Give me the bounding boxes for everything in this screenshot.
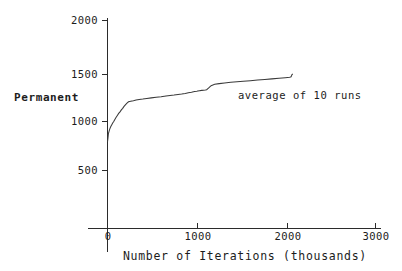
x-tick-label-1000: 1000 xyxy=(177,230,219,242)
x-tick-label-2000: 2000 xyxy=(267,230,309,242)
y-tick-label-500: 500 xyxy=(56,164,98,176)
y-tick-label-1000: 1000 xyxy=(56,115,98,127)
y-axis-title: Permanent xyxy=(14,91,79,104)
y-tick-label-2000: 2000 xyxy=(56,14,98,26)
y-tick-label-1500: 1500 xyxy=(56,68,98,80)
data-series-line xyxy=(108,74,293,142)
x-axis-title: Number of Iterations (thousands) xyxy=(123,249,367,263)
chart-figure: 2000 1500 1000 500 0 1000 2000 3000 Perm… xyxy=(0,0,402,271)
series-annotation: average of 10 runs xyxy=(238,89,362,101)
x-tick-label-0: 0 xyxy=(87,230,129,242)
x-tick-label-3000: 3000 xyxy=(355,230,397,242)
